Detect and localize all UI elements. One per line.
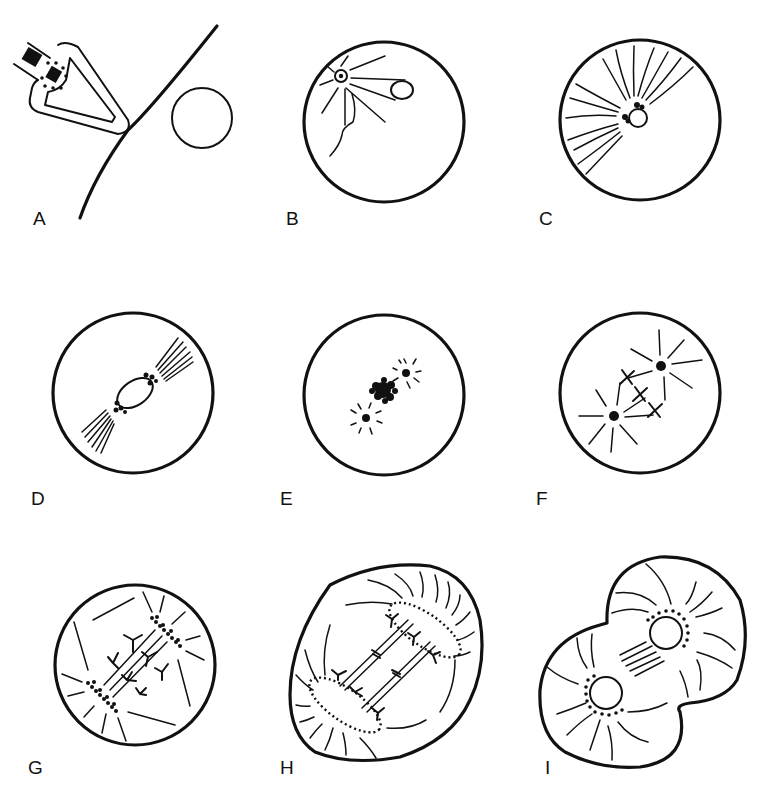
panel-label-c: C <box>539 208 553 229</box>
aster-rays-i <box>547 564 735 760</box>
panel-h: H <box>280 565 482 778</box>
aster-upper-f <box>628 330 702 400</box>
egg-cell-c <box>560 40 720 200</box>
aster-rays-c <box>566 46 693 174</box>
sperm-head-inner <box>45 58 115 122</box>
fertilization-cleavage-figure: A B <box>0 0 766 799</box>
aster-lower-e <box>351 403 382 434</box>
aster-upper-e <box>393 359 421 388</box>
egg-cell-d <box>53 313 213 473</box>
spindle-bundle-lower-d <box>82 410 114 453</box>
panel-label-h: H <box>280 757 294 778</box>
panel-label-f: F <box>536 488 548 509</box>
pronucleus-c <box>629 109 647 127</box>
cell-outline-h <box>290 565 482 761</box>
chromosomes-g <box>108 635 168 695</box>
panel-d: D <box>31 313 213 509</box>
panel-b: B <box>286 42 464 229</box>
spindle-fibers-g <box>62 592 204 741</box>
panel-e: E <box>280 315 464 509</box>
female-pronucleus-b <box>391 81 413 99</box>
panel-label-a: A <box>33 208 46 229</box>
panel-a: A <box>14 26 232 229</box>
panel-g: G <box>28 585 215 778</box>
spindle-bundle-upper-d <box>156 338 193 381</box>
daughter-nucleus-lower-i <box>590 677 622 709</box>
egg-membrane-curve <box>80 26 217 218</box>
chromosomes-h <box>332 614 440 720</box>
panel-label-e: E <box>280 488 293 509</box>
daughter-nucleus-upper-i <box>650 617 682 649</box>
aster-rays-b <box>320 56 405 125</box>
egg-nucleus <box>172 88 232 148</box>
cell-outline-i <box>540 557 745 768</box>
sperm-nucleus-block <box>45 66 62 83</box>
panel-label-d: D <box>31 488 45 509</box>
panel-c: C <box>539 40 720 229</box>
panel-label-i: I <box>545 757 550 778</box>
spindle-tubes-h <box>340 620 435 712</box>
panel-label-g: G <box>28 757 43 778</box>
panel-i: I <box>540 557 745 778</box>
panel-label-b: B <box>286 208 299 229</box>
midbody-marks-h <box>372 650 400 677</box>
panel-f: F <box>536 313 720 509</box>
nuclear-envelope-lower-h <box>301 668 388 742</box>
sperm-tail-b <box>330 94 355 156</box>
